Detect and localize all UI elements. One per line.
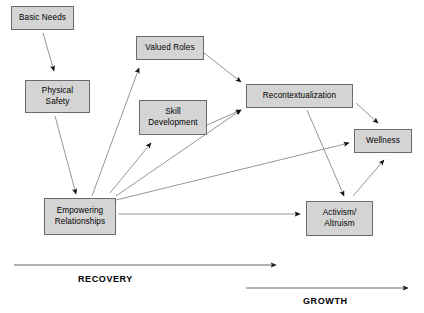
phase-label-growth: GROWTH <box>303 296 348 306</box>
node-recontextualization[interactable]: Recontextualization <box>246 84 353 108</box>
timeline-arrows <box>14 265 408 288</box>
edge-layer <box>0 0 424 313</box>
edge-valued-roles-to-recontextualization <box>204 53 241 82</box>
relationship-arrows <box>43 33 384 214</box>
node-physical-safety[interactable]: Physical Safety <box>25 80 90 113</box>
edge-empowering-relationships-to-wellness <box>116 143 349 200</box>
diagram-canvas: Basic NeedsPhysical SafetyValued RolesSk… <box>0 0 424 313</box>
edge-activism-altruism-to-wellness <box>353 160 384 196</box>
edge-skill-development-to-recontextualization <box>207 110 241 125</box>
edge-empowering-relationships-to-valued-roles <box>92 68 139 196</box>
node-activism-altruism[interactable]: Activism/ Altruism <box>306 201 373 236</box>
phase-label-recovery: RECOVERY <box>78 274 133 284</box>
node-skill-development[interactable]: Skill Development <box>139 100 207 135</box>
edge-basic-needs-to-physical-safety <box>43 33 54 71</box>
edge-recontextualization-to-activism-altruism <box>307 110 344 196</box>
node-wellness[interactable]: Wellness <box>354 129 412 153</box>
node-valued-roles[interactable]: Valued Roles <box>136 36 204 60</box>
edge-physical-safety-to-empowering-relationships <box>55 116 76 194</box>
node-basic-needs[interactable]: Basic Needs <box>11 6 74 30</box>
edge-empowering-relationships-to-skill-development <box>110 143 151 193</box>
edge-recontextualization-to-wellness <box>356 103 378 123</box>
node-empowering-relationships[interactable]: Empowering Relationships <box>44 198 116 235</box>
